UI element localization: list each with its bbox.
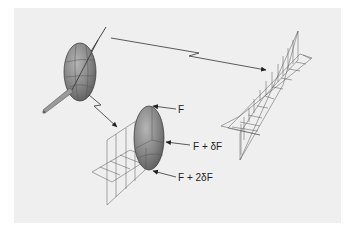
label-f-plus-df: F + δF xyxy=(193,141,222,152)
label-f-plus-2df: F + 2δF xyxy=(178,172,213,183)
middle-ellipse xyxy=(134,106,164,170)
background-panel xyxy=(14,8,341,223)
diagram-canvas: F F + δF F + 2δF xyxy=(0,0,353,229)
rod-tip xyxy=(42,110,45,113)
label-f: F xyxy=(178,104,184,115)
